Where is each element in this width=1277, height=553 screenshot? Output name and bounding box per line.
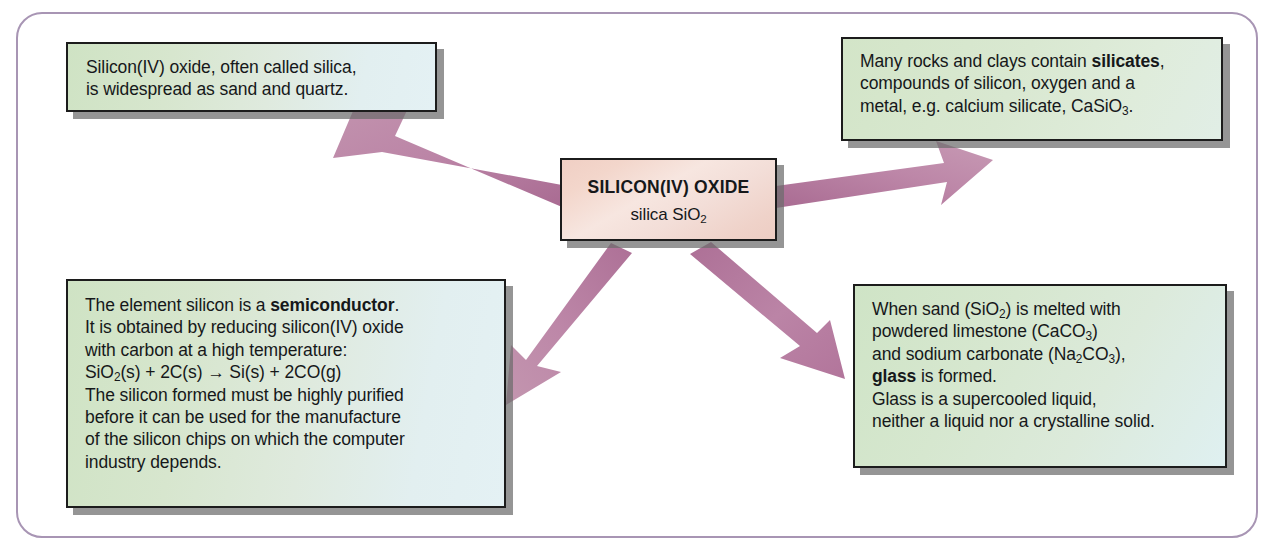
text-run: is formed. <box>916 366 997 386</box>
text-run: It is obtained by reducing silicon(IV) o… <box>85 317 404 337</box>
text-line: of the silicon chips on which the comput… <box>85 428 504 450</box>
text-run: (s) + 2C(s) <box>120 362 207 382</box>
text-run: . <box>1129 96 1134 116</box>
arrow-center-to-silica <box>333 104 562 207</box>
text-line: is widespread as sand and quartz. <box>86 78 435 100</box>
text-line: compounds of silicon, oxygen and a <box>860 72 1221 94</box>
text-run: Glass is a supercooled liquid, <box>872 389 1097 409</box>
reaction-arrow-glyph: → <box>207 362 224 382</box>
text-run: ), <box>1115 344 1126 364</box>
arrow-center-to-semiconductor <box>506 243 632 405</box>
text-run: of the silicon chips on which the comput… <box>85 429 405 449</box>
text-run: , <box>1160 51 1165 71</box>
text-line: It is obtained by reducing silicon(IV) o… <box>85 316 504 338</box>
text-line: SiO2(s) + 2C(s) → Si(s) + 2CO(g) <box>85 361 504 383</box>
emphasis: semiconductor <box>270 295 394 315</box>
text-line: Glass is a supercooled liquid, <box>872 388 1225 410</box>
text-line: Many rocks and clays contain silicates, <box>860 50 1221 72</box>
text-run: . <box>394 295 399 315</box>
text-run: SiO <box>85 362 114 382</box>
text-run: Si(s) + 2CO(g) <box>225 362 342 382</box>
info-box-silica: Silicon(IV) oxide, often called silica,i… <box>66 42 437 112</box>
center-node-subtitle-subscript: 2 <box>700 214 706 226</box>
diagram-canvas: Silicon(IV) oxide, often called silica,i… <box>0 0 1277 553</box>
emphasis: silicates <box>1092 51 1160 71</box>
text-line: neither a liquid nor a crystalline solid… <box>872 410 1225 432</box>
info-box-glass: When sand (SiO2) is melted withpowdered … <box>853 284 1227 468</box>
text-run: with carbon at a high temperature: <box>85 340 347 360</box>
info-box-silicates: Many rocks and clays contain silicates,c… <box>841 37 1223 141</box>
text-run: The silicon formed must be highly purifi… <box>85 385 404 405</box>
text-run: and sodium carbonate (Na <box>872 344 1076 364</box>
text-line: powdered limestone (CaCO3) <box>872 320 1225 342</box>
text-line: Silicon(IV) oxide, often called silica, <box>86 56 435 78</box>
text-line: glass is formed. <box>872 365 1225 387</box>
center-node-title: SILICON(IV) OXIDE <box>562 176 775 198</box>
text-line: industry depends. <box>85 451 504 473</box>
text-run: ) <box>1092 321 1098 341</box>
arrow-center-to-silicates <box>776 141 993 208</box>
center-node-subtitle: silica SiO2 <box>562 204 775 226</box>
text-run: ) is melted with <box>1006 299 1121 319</box>
text-run: metal, e.g. calcium silicate, CaSiO <box>860 96 1122 116</box>
text-line: The silicon formed must be highly purifi… <box>85 384 504 406</box>
arrow-center-to-glass <box>690 242 845 379</box>
center-node-silicon-iv-oxide: SILICON(IV) OXIDE silica SiO2 <box>560 158 777 241</box>
text-run: neither a liquid nor a crystalline solid… <box>872 411 1155 431</box>
text-run: is widespread as sand and quartz. <box>86 79 348 99</box>
text-line: and sodium carbonate (Na2CO3), <box>872 343 1225 365</box>
text-run: When sand (SiO <box>872 299 999 319</box>
center-node-subtitle-text: silica SiO <box>630 205 700 224</box>
text-run: powdered limestone (CaCO <box>872 321 1086 341</box>
text-run: before it can be used for the manufactur… <box>85 407 401 427</box>
emphasis: glass <box>872 366 916 386</box>
text-line: metal, e.g. calcium silicate, CaSiO3. <box>860 95 1221 117</box>
text-line: before it can be used for the manufactur… <box>85 406 504 428</box>
text-line: The element silicon is a semiconductor. <box>85 294 504 316</box>
text-run: compounds of silicon, oxygen and a <box>860 73 1135 93</box>
text-run: Many rocks and clays contain <box>860 51 1092 71</box>
info-box-semiconductor: The element silicon is a semiconductor.I… <box>66 279 506 508</box>
text-line: with carbon at a high temperature: <box>85 339 504 361</box>
text-run: The element silicon is a <box>85 295 270 315</box>
text-run: CO <box>1082 344 1108 364</box>
text-run: Silicon(IV) oxide, often called silica, <box>86 57 356 77</box>
text-line: When sand (SiO2) is melted with <box>872 298 1225 320</box>
text-run: industry depends. <box>85 452 221 472</box>
